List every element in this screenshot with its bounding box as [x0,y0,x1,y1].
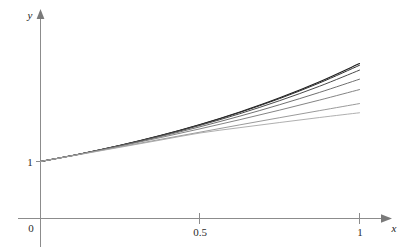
x-tick-label-0.5: 0.5 [193,226,207,238]
x-axis-label: x [391,222,397,234]
y-tick-label-1: 1 [27,156,33,168]
data-curve [41,64,360,162]
x-axis-arrow-icon [381,214,392,223]
data-curve [41,70,360,161]
y-axis-label: y [27,9,33,21]
data-curve [41,65,360,161]
data-curve [41,79,360,161]
data-curve [41,113,360,162]
chart-figure: y x 0 0.5 1 1 [0,0,410,252]
x-tick-label-1: 1 [357,226,363,238]
plot-canvas: y x 0 0.5 1 1 [0,0,410,252]
y-axis-arrow-icon [37,9,45,19]
origin-tick-label: 0 [28,222,34,234]
curve-series-group [41,64,360,162]
